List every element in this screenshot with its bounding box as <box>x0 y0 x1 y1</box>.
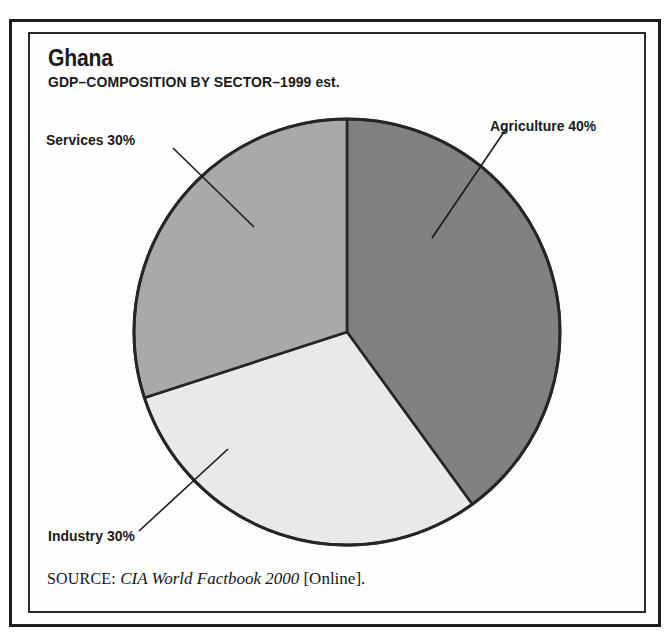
pie-label-services: Services 30% <box>46 131 135 148</box>
source-prefix: SOURCE: <box>47 570 116 587</box>
pie-label-agriculture: Agriculture 40% <box>490 117 596 134</box>
pie-label-industry: Industry 30% <box>48 527 135 544</box>
figure-page: Ghana GDP–COMPOSITION BY SECTOR–1999 est… <box>0 0 671 635</box>
source-note: SOURCE: CIA World Factbook 2000 [Online]… <box>47 569 365 589</box>
source-title: CIA World Factbook 2000 <box>120 569 299 588</box>
source-suffix: [Online]. <box>303 569 365 588</box>
